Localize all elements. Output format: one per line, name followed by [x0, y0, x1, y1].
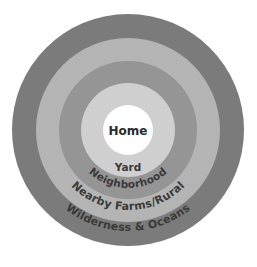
rings-svg: Wilderness & Oceans Nearby Farms/Rural N… [0, 0, 257, 267]
concentric-zones-diagram: Wilderness & Oceans Nearby Farms/Rural N… [0, 0, 257, 267]
center-label-home: Home [109, 124, 148, 138]
ring-label-yard: Yard [114, 161, 141, 173]
